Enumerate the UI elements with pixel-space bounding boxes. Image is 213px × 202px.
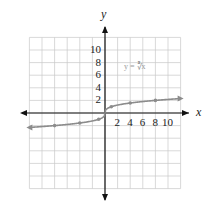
x-axis-arrow-right-icon bbox=[182, 110, 189, 116]
data-point bbox=[78, 121, 82, 125]
y-axis-arrow-down-icon bbox=[102, 194, 108, 201]
x-axis-label: x bbox=[196, 106, 201, 118]
data-point bbox=[110, 105, 114, 109]
x-tick-label: 8 bbox=[152, 117, 158, 128]
function-label: y = ∛x bbox=[124, 62, 146, 71]
y-tick-label: 6 bbox=[96, 69, 102, 80]
coordinate-plane bbox=[0, 0, 213, 202]
x-tick-label: 4 bbox=[127, 117, 133, 128]
data-point bbox=[53, 124, 57, 128]
y-axis-label: y bbox=[101, 8, 106, 20]
x-tick-label: 2 bbox=[115, 117, 121, 128]
y-axis-arrow-up-icon bbox=[102, 26, 108, 33]
y-tick-label: 2 bbox=[96, 94, 102, 105]
x-tick-label: 10 bbox=[162, 117, 173, 128]
data-point bbox=[97, 118, 101, 122]
y-tick-label: 4 bbox=[96, 82, 102, 93]
x-axis-arrow-left-icon bbox=[20, 110, 27, 116]
data-point bbox=[154, 99, 158, 103]
x-tick-label: 6 bbox=[140, 117, 146, 128]
y-tick-label: 10 bbox=[90, 44, 101, 55]
y-tick-label: 8 bbox=[96, 57, 102, 68]
data-point bbox=[128, 101, 132, 105]
